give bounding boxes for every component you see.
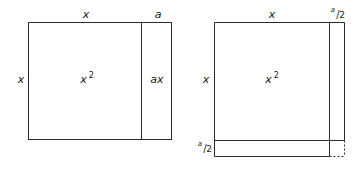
right-top-x-label: x <box>268 8 276 21</box>
svg-text:a: a <box>198 140 202 148</box>
left-strip-ax-label: ax <box>150 73 164 86</box>
right-side-x-label: x <box>202 73 210 86</box>
right-top-half-a-label: a / 2 <box>331 6 345 20</box>
svg-text:a: a <box>331 6 335 14</box>
left-top-a-label: a <box>155 8 162 21</box>
left-figure: x a x x2 ax <box>17 8 172 140</box>
right-area-x-squared: x2 <box>264 71 279 86</box>
right-figure: x a / 2 x x2 a / 2 <box>198 6 345 157</box>
svg-text:2: 2 <box>339 10 345 20</box>
completing-square-diagram: x a x x2 ax x a / 2 x x2 a / 2 <box>0 0 364 172</box>
svg-text:2: 2 <box>206 144 212 154</box>
right-bottom-half-a-label: a / 2 <box>198 140 212 154</box>
left-area-x-squared: x2 <box>79 71 94 86</box>
left-top-x-label: x <box>82 8 90 21</box>
left-side-x-label: x <box>17 73 25 86</box>
